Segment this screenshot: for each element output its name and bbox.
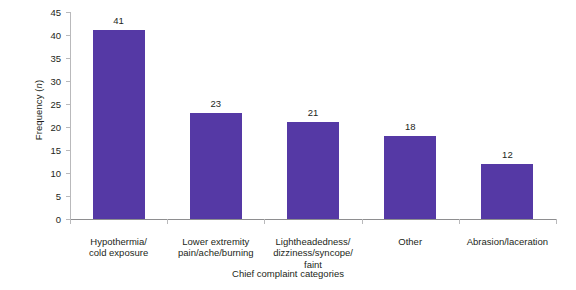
x-axis-category-label: Lightheadedness/ dizziness/syncope/ fain…	[273, 236, 353, 270]
bar-value-label: 18	[405, 121, 416, 132]
x-axis-tick-mark	[362, 219, 363, 224]
x-axis-category-label: Other	[398, 236, 422, 247]
y-axis-tick-label: 10	[50, 168, 61, 179]
bar-value-label: 21	[308, 107, 319, 118]
y-axis-tick-mark	[66, 81, 71, 82]
bar-value-label: 41	[113, 15, 124, 26]
x-axis-tick-mark	[459, 219, 460, 224]
bar[interactable]	[384, 136, 436, 219]
y-axis-tick-label: 40	[50, 30, 61, 41]
bar-value-label: 12	[502, 149, 513, 160]
bar[interactable]	[287, 122, 339, 219]
x-axis-tick-mark	[264, 219, 265, 224]
y-axis-tick-label: 45	[50, 7, 61, 18]
y-axis-title-italic: n	[33, 83, 44, 88]
y-axis-tick-label: 25	[50, 99, 61, 110]
y-axis-tick-label: 15	[50, 145, 61, 156]
y-axis-tick-label: 5	[56, 191, 61, 202]
y-axis-tick-mark	[66, 58, 71, 59]
y-axis-line	[70, 12, 71, 219]
bar[interactable]	[481, 164, 533, 219]
x-axis-tick-mark	[556, 219, 557, 224]
bar-value-label: 23	[211, 98, 222, 109]
bar[interactable]	[93, 30, 145, 219]
plot-area: 051015202530354045 4123211812 Hypothermi…	[70, 12, 556, 219]
y-axis-tick-mark	[66, 196, 71, 197]
x-axis-tick-mark	[167, 219, 168, 224]
y-axis-tick-mark	[66, 35, 71, 36]
y-axis-tick-mark	[66, 12, 71, 13]
bar[interactable]	[190, 113, 242, 219]
y-axis-tick-label: 0	[56, 214, 61, 225]
bar-chart: Frequency (n) 051015202530354045 4123211…	[0, 0, 576, 290]
x-axis-category-label: Hypothermia/ cold exposure	[89, 236, 148, 259]
x-axis-category-label: Lower extremity pain/ache/burning	[178, 236, 254, 259]
y-axis-title-prefix: Frequency (	[33, 88, 44, 140]
y-axis-tick-mark	[66, 127, 71, 128]
x-axis-title: Chief complaint categories	[0, 268, 576, 279]
y-axis-title-suffix: )	[33, 80, 44, 83]
y-axis-tick-label: 35	[50, 53, 61, 64]
x-axis-line	[70, 219, 556, 220]
y-axis-tick-mark	[66, 104, 71, 105]
y-axis-tick-label: 30	[50, 76, 61, 87]
x-axis-tick-mark	[70, 219, 71, 224]
y-axis-tick-label: 20	[50, 122, 61, 133]
x-axis-category-label: Abrasion/laceration	[467, 236, 548, 247]
y-axis-tick-mark	[66, 173, 71, 174]
y-axis-tick-mark	[66, 150, 71, 151]
